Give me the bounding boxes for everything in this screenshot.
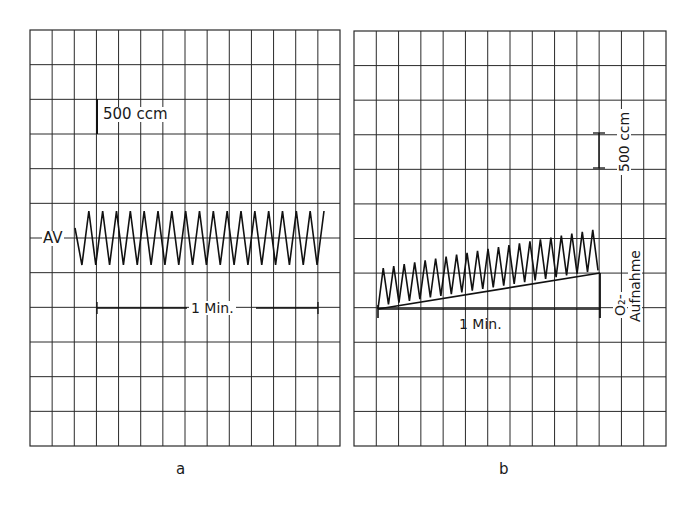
panel-a-trace-label: AV [42,231,64,246]
panel-b-trace-label-1: O₂- [613,292,627,318]
panel-a-scale-label: 500 ccm [103,107,168,122]
panel-b-scale-label: 500 ccm [617,109,631,175]
panel-a-time-label: 1 Min. [189,301,236,315]
panel-b-time-label: 1 Min. [459,317,502,331]
panel-b-caption: b [499,462,509,477]
panel-b-scale-bar [593,133,605,168]
spirogram-figure [0,0,677,507]
panel-a-caption: a [176,462,185,477]
panel-b-trace-label-2: Aufnahme [628,247,642,325]
panel-b-grid [354,31,666,446]
